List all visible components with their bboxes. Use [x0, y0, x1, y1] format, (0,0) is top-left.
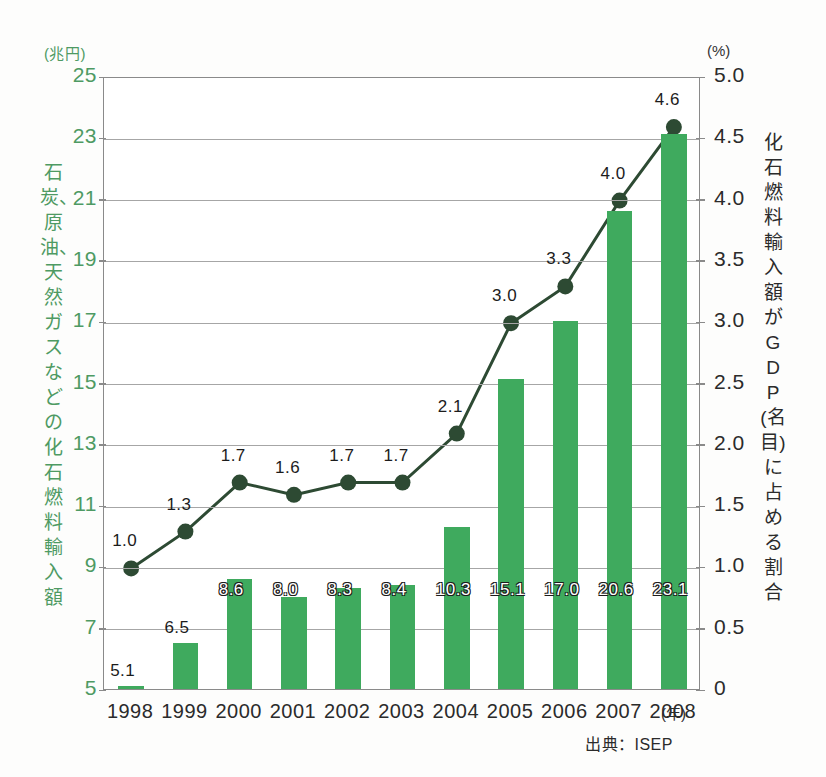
right-axis-tick-label: 1.5	[714, 492, 766, 516]
left-axis-tick-label: 11	[51, 492, 97, 516]
source-note: 出典：ISEP	[585, 731, 673, 755]
bar-value-label: 8.6	[219, 580, 244, 600]
line-value-label: 2.1	[438, 397, 463, 417]
line-data-point	[340, 475, 356, 491]
bar	[281, 597, 307, 689]
x-axis-tick-label: 2006	[534, 700, 594, 723]
x-axis-tick-label: 2007	[589, 700, 649, 723]
line-path	[131, 127, 674, 568]
left-axis-tick-mark	[99, 690, 106, 692]
left-axis-tick-mark	[99, 444, 106, 446]
left-axis-tick-mark	[99, 506, 106, 508]
left-axis-tick-label: 19	[51, 247, 97, 271]
right-axis-tick-mark	[696, 322, 705, 324]
bar-value-label: 23.1	[653, 580, 688, 600]
right-axis-tick-mark	[696, 444, 705, 446]
line-data-point	[449, 426, 465, 442]
line-value-label: 3.3	[546, 249, 571, 269]
bar-value-label: 15.1	[490, 580, 525, 600]
x-axis-tick-label: 2005	[480, 700, 540, 723]
left-axis-tick-label: 9	[51, 553, 97, 577]
left-axis-tick-label: 21	[51, 186, 97, 210]
line-data-point	[666, 119, 682, 135]
x-axis-tick-label: 2008	[643, 700, 703, 723]
line-data-point	[395, 475, 411, 491]
left-axis-tick-label: 25	[51, 63, 97, 87]
left-axis-tick-label: 23	[51, 124, 97, 148]
line-value-label: 4.6	[655, 90, 680, 110]
left-axis-tick-mark	[99, 322, 106, 324]
right-axis-tick-mark	[696, 383, 705, 385]
right-axis-tick-label: 4.5	[714, 124, 766, 148]
left-axis-tick-mark	[99, 77, 106, 79]
right-axis-tick-label: 4.0	[714, 186, 766, 210]
x-axis-tick-label: 2003	[372, 700, 432, 723]
left-axis-tick-mark	[99, 567, 106, 569]
line-data-point	[557, 278, 573, 294]
x-axis-tick-label: 1998	[100, 700, 160, 723]
bar-value-label: 10.3	[436, 580, 471, 600]
right-axis-tick-label: 3.5	[714, 247, 766, 271]
gridline	[104, 200, 699, 201]
line-data-point	[232, 475, 248, 491]
bar	[390, 585, 416, 689]
right-axis-unit-label: (%)	[707, 42, 730, 59]
left-axis-unit-label: (兆円)	[44, 42, 86, 63]
right-axis-tick-mark	[696, 690, 705, 692]
left-axis-tick-label: 13	[51, 431, 97, 455]
right-axis-tick-label: 5.0	[714, 63, 766, 87]
line-data-point	[177, 524, 193, 540]
line-value-label: 1.7	[329, 446, 354, 466]
line-value-label: 1.0	[112, 531, 137, 551]
right-axis-tick-mark	[696, 567, 705, 569]
right-axis-tick-label: 3.0	[714, 308, 766, 332]
bar-value-label: 8.3	[327, 580, 352, 600]
bar-value-label: 20.6	[599, 580, 634, 600]
right-axis-tick-mark	[696, 260, 705, 262]
right-axis-tick-label: 2.5	[714, 370, 766, 394]
left-axis-tick-mark	[99, 383, 106, 385]
gridline	[104, 139, 699, 140]
line-value-label: 3.0	[492, 286, 517, 306]
right-axis-tick-mark	[696, 77, 705, 79]
left-axis-tick-label: 17	[51, 308, 97, 332]
x-axis-tick-label: 2001	[263, 700, 323, 723]
line-value-label: 1.7	[384, 446, 409, 466]
bar-value-label: 5.1	[110, 661, 135, 681]
bar-value-label: 6.5	[164, 618, 189, 638]
bar	[498, 379, 524, 689]
right-axis-tick-label: 0	[714, 676, 766, 700]
bar	[607, 211, 633, 689]
bar	[553, 321, 579, 689]
right-axis-tick-mark	[696, 199, 705, 201]
bar	[173, 643, 199, 689]
bar-value-label: 8.0	[273, 580, 298, 600]
left-axis-tick-mark	[99, 199, 106, 201]
left-axis-tick-mark	[99, 628, 106, 630]
left-axis-tick-label: 7	[51, 615, 97, 639]
bar-value-label: 17.0	[544, 580, 579, 600]
left-axis-tick-mark	[99, 260, 106, 262]
line-value-label: 1.6	[275, 458, 300, 478]
x-axis-tick-label: 2004	[426, 700, 486, 723]
line-value-label: 1.7	[221, 446, 246, 466]
line-data-point	[286, 487, 302, 503]
bar	[444, 527, 470, 689]
right-axis-tick-mark	[696, 138, 705, 140]
bar-value-label: 8.4	[382, 580, 407, 600]
line-value-label: 1.3	[166, 495, 191, 515]
right-axis-tick-label: 2.0	[714, 431, 766, 455]
right-axis-tick-mark	[696, 506, 705, 508]
bar	[661, 134, 687, 689]
x-axis-tick-label: 2002	[317, 700, 377, 723]
right-axis-tick-mark	[696, 628, 705, 630]
right-axis-tick-label: 1.0	[714, 553, 766, 577]
left-axis-tick-label: 15	[51, 370, 97, 394]
chart-canvas: (兆円) (%) 石炭、原油、天然ガスなどの化石燃料輸入額 化石燃料輸入額がGD…	[0, 0, 826, 777]
bar	[335, 588, 361, 689]
right-axis-tick-label: 0.5	[714, 615, 766, 639]
line-value-label: 4.0	[601, 164, 626, 184]
x-axis-tick-label: 2000	[209, 700, 269, 723]
left-axis-tick-mark	[99, 138, 106, 140]
left-axis-tick-label: 5	[51, 676, 97, 700]
